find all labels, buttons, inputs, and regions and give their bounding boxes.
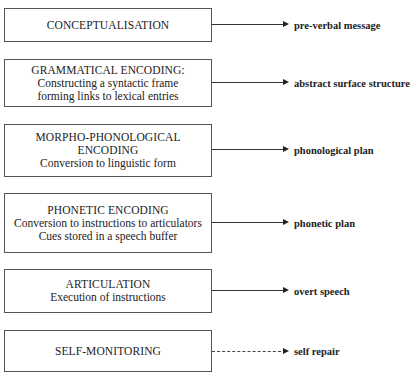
- stage-title: ENCODING: [78, 144, 139, 157]
- output-abstract-surface-structure: abstract surface structure: [294, 78, 410, 89]
- output-phonological-plan: phonological plan: [294, 145, 374, 156]
- arrow-connector: [212, 222, 286, 223]
- stage-title: GRAMMATICAL ENCODING:: [31, 64, 184, 77]
- stage-phonetic-encoding: PHONETIC ENCODING Conversion to instruct…: [4, 193, 212, 253]
- output-self-repair: self repair: [294, 346, 340, 357]
- stage-description: Cues stored in a speech buffer: [39, 230, 178, 243]
- arrowhead-icon: [283, 146, 289, 152]
- stage-description: Execution of instructions: [50, 291, 166, 304]
- arrowhead-icon: [283, 79, 289, 85]
- stage-title: SELF-MONITORING: [55, 345, 161, 358]
- dashed-arrow-connector: [212, 351, 286, 352]
- arrow-connector: [212, 24, 286, 25]
- stage-grammatical-encoding: GRAMMATICAL ENCODING: Constructing a syn…: [4, 59, 212, 107]
- stage-title: PHONETIC ENCODING: [47, 204, 168, 217]
- arrowhead-icon: [283, 219, 289, 225]
- arrow-connector: [212, 82, 286, 83]
- stage-title: MORPHO-PHONOLOGICAL: [35, 131, 180, 144]
- arrowhead-icon: [283, 21, 289, 27]
- arrowhead-icon: [283, 348, 289, 354]
- stage-conceptualisation: CONCEPTUALISATION: [4, 8, 212, 42]
- stage-self-monitoring: SELF-MONITORING: [4, 330, 212, 372]
- arrow-connector: [212, 149, 286, 150]
- stage-morpho-phonological-encoding: MORPHO-PHONOLOGICAL ENCODING Conversion …: [4, 124, 212, 177]
- output-phonetic-plan: phonetic plan: [294, 218, 355, 229]
- stage-description: Conversion to linguistic form: [40, 157, 176, 170]
- stage-description: Conversion to instructions to articulato…: [14, 217, 202, 230]
- output-pre-verbal-message: pre-verbal message: [294, 20, 380, 31]
- stage-title: ARTICULATION: [66, 278, 151, 291]
- stage-description: forming links to lexical entries: [37, 90, 178, 103]
- arrow-connector: [212, 290, 286, 291]
- stage-articulation: ARTICULATION Execution of instructions: [4, 269, 212, 313]
- stage-title: CONCEPTUALISATION: [47, 19, 169, 32]
- arrowhead-icon: [283, 287, 289, 293]
- stage-description: Constructing a syntactic frame: [38, 77, 179, 90]
- output-overt-speech: overt speech: [294, 286, 350, 297]
